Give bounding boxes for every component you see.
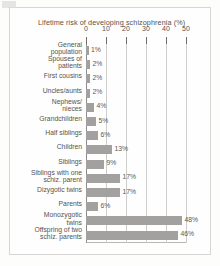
bar [86,145,112,154]
x-tick-label-50: 50 [182,25,190,32]
bar-row: Nephews/nieces4% [86,101,186,115]
x-tick-label-40: 40 [162,25,170,32]
bar-value-label: 1% [91,46,101,53]
bar-row: Parents6% [86,200,186,214]
category-label: Siblings [0,158,82,165]
category-label: First cousins [0,72,82,79]
bar-row: Spouses ofpatients2% [86,58,186,72]
x-tick-label-10: 10 [102,25,110,32]
bar-value-label: 9% [107,159,117,166]
tick-mark-0 [86,37,87,44]
bar [86,216,182,225]
category-label: Siblings with oneschiz. parent [0,169,82,183]
category-label: Monozygotictwins [0,211,82,225]
bar-row: Grandchildren5% [86,115,186,129]
tick-mark-10 [106,37,107,44]
bar-value-label: 46% [181,230,195,237]
bar-value-label: 6% [101,202,111,209]
bar-value-label: 17% [123,173,137,180]
category-label: Dizygotic twins [0,186,82,193]
bar-row: Dizygotic twins17% [86,186,186,200]
bar [86,231,178,240]
bar-row: Siblings9% [86,158,186,172]
bar-value-label: 5% [99,117,109,124]
bar-value-label: 2% [93,60,103,67]
plot-area: 01020304050 Generalpopulation1%Spouses o… [86,44,186,243]
category-label: Half siblings [0,129,82,136]
tick-mark-30 [146,37,147,44]
bar [86,103,94,112]
category-label: Generalpopulation [0,41,82,55]
bar [86,202,98,211]
category-label-cell: Nephews/nieces [0,101,82,115]
tick-mark-40 [166,37,167,44]
tick-mark-50 [186,37,187,44]
bar [86,46,89,55]
bar-value-label: 2% [93,88,103,95]
bar-value-label: 6% [101,131,111,138]
bar-value-label: 4% [97,102,107,109]
bar [86,131,98,140]
category-label-cell: Half siblings [0,129,82,143]
bar [86,117,96,126]
category-label-cell: Offspring of twoschiz. parents [0,229,82,243]
bar-row: Generalpopulation1% [86,44,186,58]
tick-mark-20 [126,37,127,44]
bar-value-label: 17% [123,188,137,195]
bar [86,188,120,197]
bar-row: Offspring of twoschiz. parents46% [86,229,186,243]
category-label: Uncles/aunts [0,87,82,94]
bar-value-label: 13% [115,145,129,152]
bar [86,174,120,183]
category-label: Offspring of twoschiz. parents [0,226,82,240]
category-label-cell: Spouses ofpatients [0,58,82,72]
category-label-cell: First cousins [0,72,82,86]
category-label: Children [0,143,82,150]
chart-figure: Lifetime risk of developing schizophreni… [0,0,220,266]
category-label: Nephews/nieces [0,98,82,112]
category-label: Parents [0,200,82,207]
category-label: Spouses ofpatients [0,55,82,69]
category-label-cell: Children [0,143,82,157]
bar [86,160,104,169]
bar [86,74,90,83]
bar-row: Monozygotictwins48% [86,214,186,228]
x-tick-label-0: 0 [84,25,88,32]
scan-artifact [2,1,16,8]
x-tick-label-30: 30 [142,25,150,32]
bar-row: First cousins2% [86,72,186,86]
bar-row: Siblings with oneschiz. parent17% [86,172,186,186]
category-label-cell: Grandchildren [0,115,82,129]
bar-row: Half siblings6% [86,129,186,143]
bar [86,89,90,98]
bar-value-label: 2% [93,74,103,81]
category-label: Grandchildren [0,115,82,122]
x-tick-label-20: 20 [122,25,130,32]
bar [86,60,90,69]
category-label-cell: Dizygotic twins [0,186,82,200]
bar-row: Uncles/aunts2% [86,87,186,101]
bar-row: Children13% [86,143,186,157]
bar-value-label: 48% [185,216,199,223]
gridline-50 [186,44,187,243]
category-label-cell: Siblings with oneschiz. parent [0,172,82,186]
